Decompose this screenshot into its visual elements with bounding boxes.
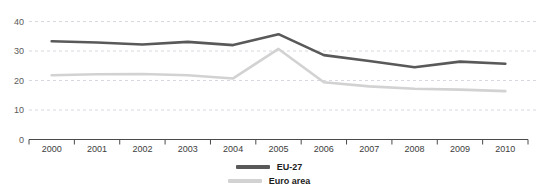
y-axis-tick-label: 10 bbox=[0, 105, 24, 115]
x-axis-tick-label: 2010 bbox=[483, 144, 528, 155]
legend-swatch-eu27 bbox=[236, 165, 270, 169]
x-axis-tick-label: 2007 bbox=[347, 144, 392, 155]
y-axis-tick-label: 30 bbox=[0, 46, 24, 56]
legend-item-eu27[interactable]: EU-27 bbox=[236, 160, 303, 173]
x-axis-tick-label: 2004 bbox=[210, 144, 255, 155]
x-axis-tick-label: 2000 bbox=[29, 144, 74, 155]
legend-label-eu27: EU-27 bbox=[277, 162, 303, 172]
x-axis-tick-label: 2001 bbox=[74, 144, 119, 155]
x-axis-tick-label: 2002 bbox=[120, 144, 165, 155]
y-axis-tick-label: 20 bbox=[0, 76, 24, 86]
legend-item-euro-area[interactable]: Euro area bbox=[228, 174, 311, 187]
x-axis-tick-label: 2008 bbox=[392, 144, 437, 155]
y-axis-tick-label: 0 bbox=[0, 135, 24, 145]
x-axis-tick-label: 2003 bbox=[165, 144, 210, 155]
line-chart: 010203040 200020012002200320042005200620… bbox=[0, 0, 538, 192]
x-axis-tick-label: 2005 bbox=[256, 144, 301, 155]
series-line-euro-area bbox=[52, 49, 506, 91]
gridlines bbox=[29, 22, 536, 140]
data-series-group bbox=[52, 34, 506, 91]
legend-label-euro-area: Euro area bbox=[269, 176, 311, 186]
x-axis-tick-label: 2006 bbox=[301, 144, 346, 155]
y-axis-tick-label: 40 bbox=[0, 17, 24, 27]
chart-legend: EU-27 Euro area bbox=[0, 160, 538, 187]
x-axis-tick-label: 2009 bbox=[437, 144, 482, 155]
legend-swatch-euro-area bbox=[228, 179, 262, 183]
